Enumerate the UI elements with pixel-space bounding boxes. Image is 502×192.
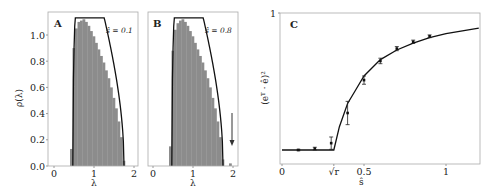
- panel-a: 0.00.20.40.60.81.0 012 A ŝ = 0.1 λ ρ(λ): [14, 12, 138, 188]
- histogram-bar: [202, 63, 205, 166]
- data-point: [346, 112, 349, 115]
- x-tick-label: √r: [329, 166, 340, 177]
- histogram-bar: [187, 26, 190, 166]
- panel-b-letter: B: [153, 18, 161, 29]
- panel-c-data-points: [296, 35, 431, 151]
- figure: 0.00.20.40.60.81.0 012 A ŝ = 0.1 λ ρ(λ) …: [0, 0, 502, 192]
- panel-c-theory-curve: [282, 28, 479, 150]
- panel-c-letter: C: [290, 19, 298, 30]
- histogram-bar: [80, 21, 83, 166]
- y-tick-label: 0.2: [30, 134, 45, 145]
- histogram-bar: [85, 22, 88, 166]
- histogram-bar: [217, 121, 220, 166]
- histogram-bar: [98, 49, 101, 166]
- panel-a-xlabel: λ: [91, 178, 97, 188]
- y-tick-label: 1: [270, 8, 276, 19]
- histogram-bar: [120, 137, 123, 166]
- histogram-bar: [115, 108, 118, 166]
- y-tick-label: 0.4: [30, 108, 45, 119]
- outlier-arrow-head-icon: [230, 140, 235, 146]
- histogram-bar: [207, 78, 210, 166]
- histogram-bar: [179, 21, 182, 166]
- x-tick-label: 2: [131, 168, 137, 179]
- panel-c: 0√r0.51 1 C ŝ (eᵀ · ê)²: [260, 8, 480, 188]
- panel-c-frame: [280, 13, 480, 164]
- histogram-bar: [93, 36, 96, 166]
- panel-a-yticks: 0.00.20.40.60.81.0: [30, 30, 48, 172]
- panel-b-xlabel: λ: [190, 178, 196, 188]
- x-tick-label: 2: [230, 168, 236, 179]
- histogram-bar: [100, 56, 103, 166]
- y-tick-label: 0.0: [30, 161, 45, 172]
- data-point: [412, 40, 415, 43]
- histogram-bar: [83, 19, 86, 166]
- histogram-bar: [189, 31, 192, 166]
- histogram-bar: [204, 70, 207, 166]
- data-point: [330, 142, 333, 145]
- histogram-bar: [90, 31, 93, 166]
- data-point: [363, 79, 366, 82]
- panel-a-annotation: ŝ = 0.1: [106, 26, 133, 35]
- histogram-bar: [219, 137, 222, 166]
- panel-c-yticks: 1: [270, 8, 280, 19]
- histogram-bar: [199, 56, 202, 166]
- data-point: [314, 147, 317, 150]
- x-tick-label: 0: [51, 168, 57, 179]
- histogram-bar: [174, 30, 177, 166]
- panel-a-letter: A: [53, 18, 62, 29]
- y-tick-label: 0.6: [30, 82, 45, 93]
- histogram-bar: [194, 43, 197, 166]
- histogram-bar: [118, 121, 121, 166]
- histogram-bar: [214, 108, 217, 166]
- histogram-bar: [209, 87, 212, 166]
- histogram-bar: [182, 19, 185, 166]
- panel-b-annotation: ŝ = 0.8: [205, 26, 232, 35]
- histogram-bar: [184, 22, 187, 166]
- histogram-bar: [110, 87, 113, 166]
- data-point: [428, 35, 431, 38]
- histogram-bar: [88, 26, 91, 166]
- data-point: [297, 149, 300, 152]
- histogram-bar: [105, 70, 108, 166]
- histogram-bar: [95, 43, 98, 166]
- panel-a-bars: [70, 19, 125, 166]
- x-tick-label: 0: [150, 168, 156, 179]
- histogram-bar: [177, 23, 180, 166]
- panel-b: 012 B ŝ = 0.8 λ: [148, 12, 238, 188]
- panel-c-xlabel: ŝ: [359, 177, 364, 187]
- panel-c-xticks: 0√r0.51: [279, 164, 449, 177]
- histogram-bar: [103, 63, 106, 166]
- histogram-bar: [212, 98, 215, 166]
- histogram-bar: [78, 22, 81, 166]
- histogram-bar: [108, 78, 111, 166]
- histogram-bar: [192, 36, 195, 166]
- x-tick-label: 0: [279, 166, 285, 177]
- y-tick-label: 1.0: [30, 30, 45, 41]
- histogram-bar: [197, 49, 200, 166]
- panel-c-ylabel: (eᵀ · ê)²: [260, 71, 270, 105]
- panel-a-ylabel: ρ(λ): [14, 89, 24, 107]
- histogram-bar: [113, 98, 116, 166]
- x-tick-label: 1: [443, 166, 449, 177]
- x-tick-label: 0.5: [356, 166, 371, 177]
- data-point: [379, 60, 382, 63]
- histogram-bar: [75, 28, 78, 166]
- y-tick-label: 0.8: [30, 56, 45, 67]
- data-point: [396, 47, 399, 50]
